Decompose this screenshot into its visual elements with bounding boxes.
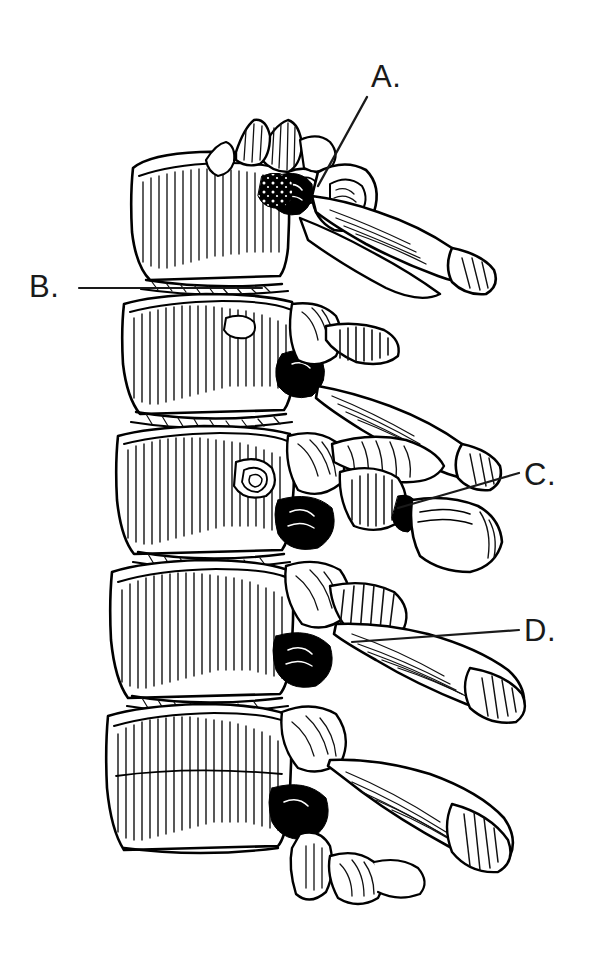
label-a: A.	[371, 61, 401, 92]
vertebra-4	[110, 560, 293, 713]
vertebra-5	[106, 704, 291, 853]
vertebra-3	[116, 426, 294, 569]
label-b: B.	[29, 271, 59, 302]
spine-illustration	[0, 0, 597, 964]
label-d: D.	[524, 615, 556, 646]
vertebra-2	[122, 294, 296, 429]
anatomical-figure: A. B. C. D.	[0, 0, 597, 964]
label-c: C.	[524, 459, 556, 490]
